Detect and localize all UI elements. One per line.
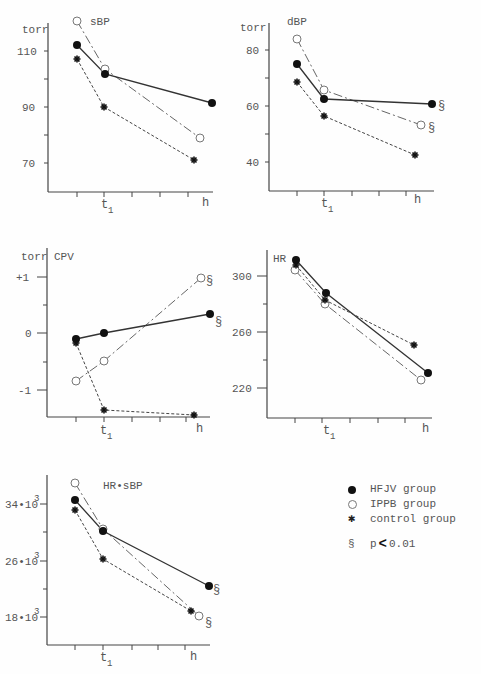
y-tick-label: 60 <box>246 101 259 113</box>
x-tick-sub: 1 <box>330 432 335 442</box>
marker-hfjv <box>322 289 330 297</box>
y-tick-label: 300 <box>232 271 252 283</box>
y-tick-label: 0 <box>25 328 32 340</box>
marker-hfjv <box>71 496 79 504</box>
legend-item-hfjv: HFJV group <box>348 482 456 497</box>
marker-ippb <box>196 134 204 142</box>
series-control <box>77 59 194 160</box>
marker-control <box>101 104 108 111</box>
legend-significance: § p < 0.01 <box>348 537 456 552</box>
marker-control <box>321 113 328 120</box>
marker-hfjv <box>99 527 107 535</box>
x-tick-sub: 1 <box>108 206 113 216</box>
series-ippb <box>75 483 199 616</box>
y-unit-label: torr <box>21 251 47 263</box>
series-ippb <box>76 278 201 381</box>
marker-hfjv <box>208 99 216 107</box>
y-tick-exp: 3 <box>34 551 39 561</box>
marker-ippb <box>73 17 81 25</box>
marker-control <box>100 556 107 563</box>
y-tick-label: 220 <box>232 383 252 395</box>
legend-item-control: ✱ control group <box>348 512 456 527</box>
legend-item-ippb: IPPB group <box>348 497 456 512</box>
y-tick-label: 110 <box>17 46 37 58</box>
series-hfjv <box>76 314 210 339</box>
filled-circle-icon <box>348 486 356 494</box>
chart-cpv: torr CPV +1 0 -1 t 1 h § § <box>16 248 222 442</box>
y-unit-label: torr <box>22 24 48 36</box>
figure-canvas: torr sBP 110 90 70 t 1 h torr dB <box>0 0 481 674</box>
y-tick-label: -1 <box>18 385 32 397</box>
marker-ippb <box>320 86 328 94</box>
series-control <box>76 343 194 415</box>
significance-mark: § <box>215 315 222 329</box>
marker-ippb <box>71 479 79 487</box>
series-ippb <box>77 21 200 138</box>
marker-control <box>191 412 198 419</box>
marker-control <box>72 507 79 514</box>
marker-control <box>188 608 195 615</box>
series-ippb <box>297 39 421 125</box>
marker-control <box>101 407 108 414</box>
chart-dbp: torr dBP 80 60 40 t 1 h § § <box>240 16 445 215</box>
chart-title: HR <box>273 253 287 265</box>
marker-control <box>412 152 419 159</box>
marker-ippb <box>293 35 301 43</box>
y-tick-label: 80 <box>246 45 259 57</box>
marker-hfjv <box>206 310 214 318</box>
marker-hfjv <box>101 70 109 78</box>
marker-hfjv <box>424 369 432 377</box>
y-tick-label: 70 <box>22 158 35 170</box>
asterisk-icon: ✱ <box>348 512 355 527</box>
chart-title: sBP <box>90 16 110 28</box>
y-tick-label: 40 <box>246 157 259 169</box>
significance-mark: § <box>438 99 445 113</box>
marker-control <box>73 340 80 347</box>
x-tick-label-h: h <box>190 650 197 664</box>
marker-hfjv <box>320 95 328 103</box>
less-than-icon: < <box>379 537 387 552</box>
section-sign-icon: § <box>348 537 370 552</box>
significance-mark: § <box>205 616 212 630</box>
marker-hfjv <box>428 100 436 108</box>
marker-ippb <box>417 121 425 129</box>
y-tick-label: 90 <box>22 102 35 114</box>
marker-ippb <box>72 377 80 385</box>
legend-label: control group <box>370 512 456 527</box>
series-control <box>296 265 414 345</box>
x-tick-label-h: h <box>414 193 421 207</box>
significance-p: p <box>370 537 377 552</box>
marker-control <box>293 262 300 269</box>
chart-title: dBP <box>287 16 307 28</box>
significance-mark: § <box>428 121 435 135</box>
marker-hfjv <box>205 582 213 590</box>
chart-title: CPV <box>54 251 74 263</box>
x-tick-label-h: h <box>196 422 203 436</box>
chart-sbp: torr sBP 110 90 70 t 1 h <box>17 16 216 216</box>
marker-control <box>74 56 81 63</box>
series-hfjv <box>296 260 428 373</box>
marker-hfjv <box>100 329 108 337</box>
significance-mark: § <box>213 583 220 597</box>
significance-mark: § <box>206 274 213 288</box>
y-tick-label: +1 <box>16 272 30 284</box>
chart-title: HR•sBP <box>103 480 143 492</box>
x-tick-sub: 1 <box>328 205 333 215</box>
marker-ippb <box>417 376 425 384</box>
marker-control <box>294 79 301 86</box>
y-tick-label: 260 <box>232 327 252 339</box>
marker-control <box>411 342 418 349</box>
marker-ippb <box>197 274 205 282</box>
open-circle-icon <box>348 500 357 509</box>
y-unit-label: torr <box>240 22 266 34</box>
series-hfjv <box>297 64 432 104</box>
legend-label: HFJV group <box>370 482 436 497</box>
legend: HFJV group IPPB group ✱ control group § … <box>348 482 456 552</box>
legend-label: IPPB group <box>370 497 436 512</box>
series-control <box>75 510 191 611</box>
significance-value: 0.01 <box>389 537 415 552</box>
y-tick-exp: 3 <box>34 494 39 504</box>
marker-ippb <box>195 612 203 620</box>
x-tick-sub: 1 <box>107 432 112 442</box>
series-control <box>297 82 415 155</box>
